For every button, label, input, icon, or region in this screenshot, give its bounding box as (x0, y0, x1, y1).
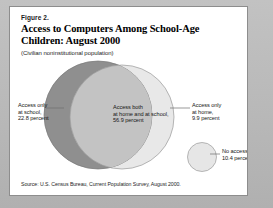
venn-diagram: Access only at school, 22.8 percent Acce… (10, 7, 248, 196)
label-access-both-home-and-school: Access both at home and at school, 56.9 … (113, 104, 169, 124)
label-school-only-line-1: Access only (18, 102, 49, 109)
figure-root: Figure 2. Access to Computers Among Scho… (0, 0, 273, 208)
label-school-only-value: 22.8 percent (18, 115, 49, 122)
no-access-circle (188, 143, 217, 172)
label-both-value: 56.9 percent (113, 117, 169, 124)
label-access-only-at-home: Access only at home, 9.9 percent (192, 102, 221, 122)
label-home-only-value: 9.9 percent (192, 115, 221, 122)
label-school-only-line-2: at school, (18, 109, 49, 116)
label-both-line-1: Access both (113, 104, 169, 111)
label-no-access-line-1: No access, (222, 148, 248, 155)
label-access-only-at-school: Access only at school, 22.8 percent (18, 102, 49, 122)
label-both-line-2: at home and at school, (113, 111, 169, 118)
label-no-access: No access, 10.4 percent (222, 148, 248, 161)
label-home-only-line-2: at home, (192, 109, 221, 116)
source-note: Source: U.S. Census Bureau, Current Popu… (21, 181, 181, 187)
figure-panel: Figure 2. Access to Computers Among Scho… (9, 6, 248, 196)
label-home-only-line-1: Access only (192, 102, 221, 109)
label-no-access-value: 10.4 percent (222, 155, 248, 162)
